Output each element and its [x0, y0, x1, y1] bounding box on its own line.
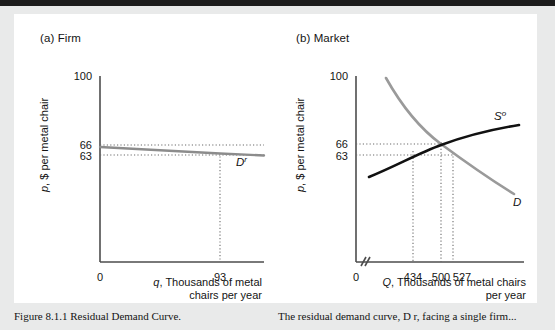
panel-a-plot: 100 66 63 0 93 Dr: [14, 14, 276, 303]
panel-a-curve-label-superscript: r: [244, 155, 247, 164]
panel-b-ytick-66: 66: [336, 138, 348, 150]
panel-a-ytick-63: 63: [80, 150, 92, 162]
panel-b-supply-label-superscript: o: [502, 109, 507, 118]
panel-b-supply-curve: [369, 125, 519, 177]
panel-a-residual-demand-curve: [100, 147, 264, 156]
figure-page: (a) Firm p, $ per metal chair q, Thousan…: [0, 0, 555, 330]
panel-a-curve-label: Dr: [236, 155, 247, 168]
panel-b-xtick-434: 434: [404, 271, 422, 283]
panel-b-supply-label: So: [494, 109, 507, 122]
panel-firm: (a) Firm p, $ per metal chair q, Thousan…: [14, 14, 276, 303]
figure-caption: Figure 8.1.1 Residual Demand Curve.The r…: [14, 310, 537, 330]
panel-b-ytick-63: 63: [336, 150, 348, 162]
figure-white-panel: (a) Firm p, $ per metal chair q, Thousan…: [14, 14, 537, 303]
panel-a-ytick-100: 100: [74, 70, 92, 82]
panel-b-demand-curve: [386, 78, 514, 194]
figure-caption-left: Figure 8.1.1 Residual Demand Curve.: [14, 310, 264, 323]
panel-market: (b) Market p, $ per metal chair Q, Thous…: [276, 14, 537, 303]
panel-a-xtick-0: 0: [97, 271, 103, 283]
panel-a-curve-label-letter: D: [236, 156, 244, 168]
panel-b-demand-label: D: [513, 196, 521, 208]
panel-b-xtick-0: 0: [353, 271, 359, 283]
panel-a-xtick-93: 93: [214, 271, 226, 283]
panel-b-xtick-527: 527: [453, 271, 471, 283]
panel-b-xtick-500: 500: [432, 271, 450, 283]
figure-caption-right: The residual demand curve, D r, facing a…: [278, 310, 528, 323]
panel-b-ytick-100: 100: [330, 70, 348, 82]
panel-b-plot: 100 66 63 0 434 500 527 So D: [276, 14, 537, 303]
